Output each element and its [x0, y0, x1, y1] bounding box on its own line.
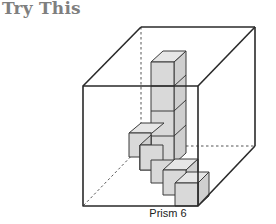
prism-figure	[0, 0, 276, 224]
figure-caption: Prism 6	[140, 207, 196, 219]
